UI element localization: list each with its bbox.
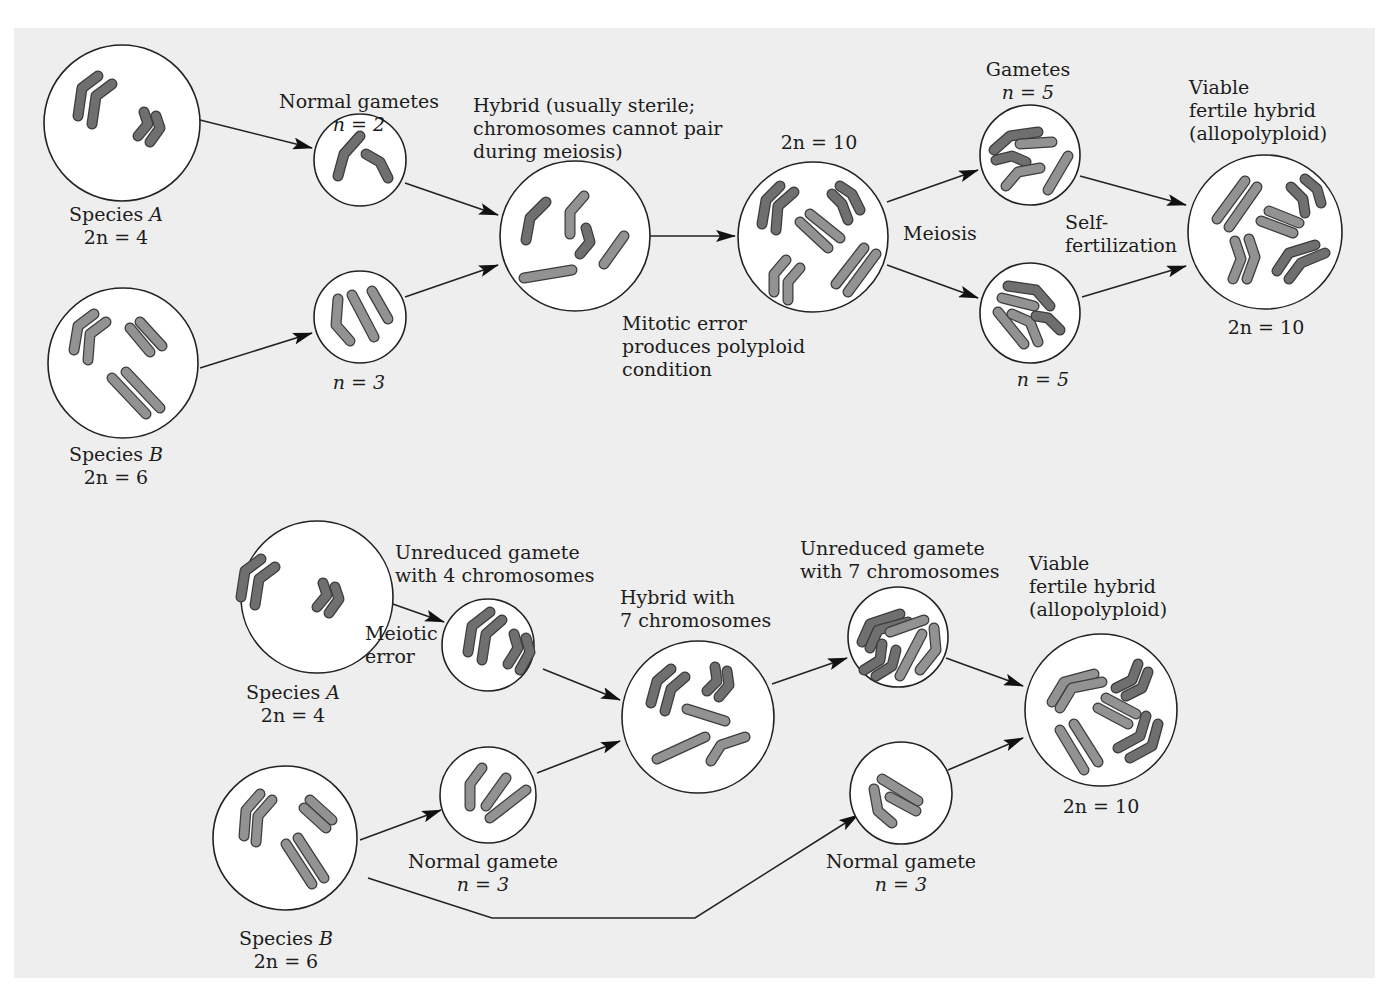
gametes-n-top: n = 5: [1002, 81, 1054, 103]
viable-top-line1: Viable: [1189, 76, 1327, 99]
hybrid-line1: Hybrid (usually sterile;: [473, 94, 722, 117]
arrows: [200, 120, 1186, 918]
species-b-letter: B: [149, 443, 163, 465]
label-species-b-bottom: Species B 2n = 6: [239, 927, 333, 973]
meiotic-error-line1: Meiotic: [365, 622, 438, 645]
label-gamete-n3-top: n = 3: [333, 371, 385, 394]
hybrid-line2: chromosomes cannot pair: [473, 117, 722, 140]
normal-gamete-left-title: Normal gamete: [408, 850, 558, 873]
label-viable-top-ploidy: 2n = 10: [1228, 316, 1305, 339]
arrow-gamete-bottom-to-viable: [1082, 266, 1186, 297]
unreduced-4-line1: Unreduced gamete: [395, 541, 594, 564]
cells: [44, 45, 1342, 910]
arrow-hybrid-to-unreduced-7: [772, 658, 847, 684]
viable-bottom-line1: Viable: [1029, 552, 1167, 575]
arrow-species-b-to-normal-gamete: [360, 810, 441, 840]
cell-species-b-top: [48, 288, 198, 438]
arrow-gamete-a-to-hybrid: [405, 183, 498, 215]
label-hybrid-sterile: Hybrid (usually sterile; chromosomes can…: [473, 94, 722, 163]
label-gametes-n-bottom: n = 5: [1017, 368, 1069, 391]
normal-gamete-left-n: n = 3: [457, 873, 509, 895]
mitotic-error-line3: condition: [622, 358, 805, 381]
species-b-bottom-name: Species: [239, 927, 313, 949]
normal-gametes-title: Normal gametes: [279, 90, 439, 113]
label-normal-gamete-left: Normal gamete n = 3: [408, 850, 558, 896]
label-self-fertilization: Self- fertilization: [1065, 211, 1177, 257]
viable-top-line3: (allopolyploid): [1189, 122, 1327, 145]
arrow-unreduced-to-hybrid: [543, 669, 620, 700]
label-viable-top: Viable fertile hybrid (allopolyploid): [1189, 76, 1327, 145]
label-mitotic-error: Mitotic error produces polyploid conditi…: [622, 312, 805, 381]
species-b-bottom-ploidy: 2n = 6: [239, 950, 333, 973]
normal-gamete-n2: n = 2: [333, 113, 385, 135]
arrow-meiosis-top: [887, 170, 978, 202]
label-meiotic-error: Meiotic error: [365, 622, 438, 668]
gametes-n-bottom: n = 5: [1017, 368, 1069, 390]
species-a-name: Species: [69, 203, 143, 225]
arrow-normal-gamete-to-hybrid: [537, 741, 620, 773]
label-hybrid-7: Hybrid with 7 chromosomes: [620, 586, 771, 632]
arrow-unreduced-7-to-viable: [946, 658, 1023, 686]
species-a-letter: A: [149, 203, 163, 225]
species-b-name: Species: [69, 443, 143, 465]
mitotic-error-line1: Mitotic error: [622, 312, 805, 335]
hybrid-7-line1: Hybrid with: [620, 586, 771, 609]
arrow-meiosis-bottom: [887, 265, 978, 298]
cell-viable-top: [1188, 155, 1342, 309]
self-fert-line1: Self-: [1065, 211, 1177, 234]
gametes-title: Gametes: [986, 58, 1070, 81]
normal-gamete-right-title: Normal gamete: [826, 850, 976, 873]
unreduced-7-line1: Unreduced gamete: [800, 537, 999, 560]
viable-bottom-line3: (allopolyploid): [1029, 598, 1167, 621]
label-meiosis: Meiosis: [903, 222, 977, 245]
arrow-normal-gamete-to-viable: [948, 738, 1023, 770]
arrow-gamete-b-to-hybrid: [405, 265, 498, 297]
cell-species-a-top: [44, 45, 200, 201]
viable-bottom-line2: fertile hybrid: [1029, 575, 1167, 598]
species-b-bottom-letter: B: [319, 927, 333, 949]
label-normal-gamete-right: Normal gamete n = 3: [826, 850, 976, 896]
label-normal-gametes: Normal gametes n = 2: [279, 90, 439, 136]
label-unreduced-4: Unreduced gamete with 4 chromosomes: [395, 541, 594, 587]
label-species-b-top: Species B 2n = 6: [69, 443, 163, 489]
cell-species-b-bottom: [213, 766, 357, 910]
arrow-species-b-to-gamete: [200, 333, 312, 368]
hybrid-line3: during meiosis): [473, 140, 722, 163]
species-a-bottom-letter: A: [326, 681, 340, 703]
label-gametes: Gametes n = 5: [986, 58, 1070, 104]
label-species-a-bottom: Species A 2n = 4: [246, 681, 340, 727]
label-viable-bottom: Viable fertile hybrid (allopolyploid): [1029, 552, 1167, 621]
unreduced-4-line2: with 4 chromosomes: [395, 564, 594, 587]
meiotic-error-line2: error: [365, 645, 438, 668]
label-doubled-ploidy: 2n = 10: [781, 131, 858, 154]
species-a-ploidy: 2n = 4: [69, 226, 163, 249]
normal-gamete-right-n: n = 3: [875, 873, 927, 895]
label-unreduced-7: Unreduced gamete with 7 chromosomes: [800, 537, 999, 583]
viable-top-line2: fertile hybrid: [1189, 99, 1327, 122]
label-viable-bottom-ploidy: 2n = 10: [1063, 795, 1140, 818]
self-fert-line2: fertilization: [1065, 234, 1177, 257]
arrow-gamete-top-to-viable: [1080, 176, 1186, 205]
species-b-ploidy: 2n = 6: [69, 466, 163, 489]
label-species-a-top: Species A 2n = 4: [69, 203, 163, 249]
unreduced-7-line2: with 7 chromosomes: [800, 560, 999, 583]
species-a-bottom-name: Species: [246, 681, 320, 703]
mitotic-error-line2: produces polyploid: [622, 335, 805, 358]
species-a-bottom-ploidy: 2n = 4: [246, 704, 340, 727]
hybrid-7-line2: 7 chromosomes: [620, 609, 771, 632]
normal-gamete-n3: n = 3: [333, 371, 385, 393]
